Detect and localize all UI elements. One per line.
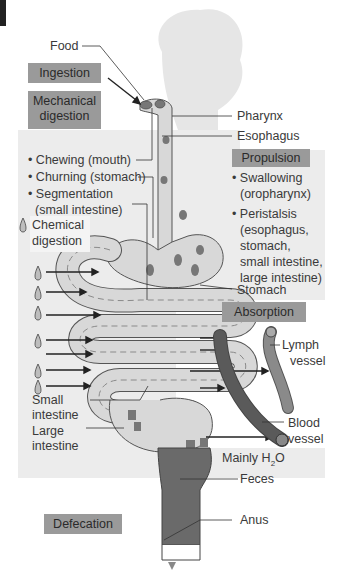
water-suffix: O [275,451,285,465]
large-intestine-label-2: intestine [32,439,79,454]
propulsion-item-peristalsis-sub1: (esophagus, [240,223,309,238]
pharynx-label: Pharynx [237,109,283,124]
mechanical-line2: digestion [28,109,101,124]
small-intestine-label-1: Small [32,393,63,408]
anus-label: Anus [240,513,269,528]
lymph-vessel-label-2: vessel [290,354,325,369]
lymph-vessel-label-1: Lymph [282,338,319,353]
blood-vessel-label-2: vessel [288,432,323,447]
esophagus-label: Esophagus [237,129,300,144]
absorption-box: Absorption [222,302,306,322]
defecation-box: Defecation [44,514,122,534]
mechanical-item-churning: • Churning (stomach) [28,170,146,185]
propulsion-item-peristalsis-sub3: small intestine, [240,255,323,270]
large-intestine-label-1: Large [32,424,64,439]
food-label: Food [50,39,79,54]
chemical-line1: Chemical [32,218,84,233]
mechanical-digestion-box: Mechanical digestion [28,91,101,129]
stomach-label: Stomach [237,283,286,298]
water-prefix: Mainly H [222,451,271,465]
ingestion-box: Ingestion [28,63,101,83]
blood-vessel-label-1: Blood [288,416,320,431]
mechanical-item-segmentation: • Segmentation [28,187,113,202]
small-intestine-label-2: intestine [32,408,79,423]
propulsion-item-swallowing-sub: (oropharynx) [240,187,311,202]
propulsion-item-swallowing: • Swallowing [232,171,302,186]
mechanical-line1: Mechanical [28,94,101,109]
propulsion-item-peristalsis-sub2: stomach, [240,239,291,254]
mechanical-item-chewing: • Chewing (mouth) [28,153,131,168]
propulsion-item-peristalsis: • Peristalsis [232,207,297,222]
propulsion-box: Propulsion [232,149,310,167]
drop-icon [18,218,28,234]
water-label: Mainly H2O [222,451,285,471]
feces-label: Feces [240,472,274,487]
digestive-tract-diagram [0,0,352,574]
chemical-line2: digestion [32,234,82,249]
